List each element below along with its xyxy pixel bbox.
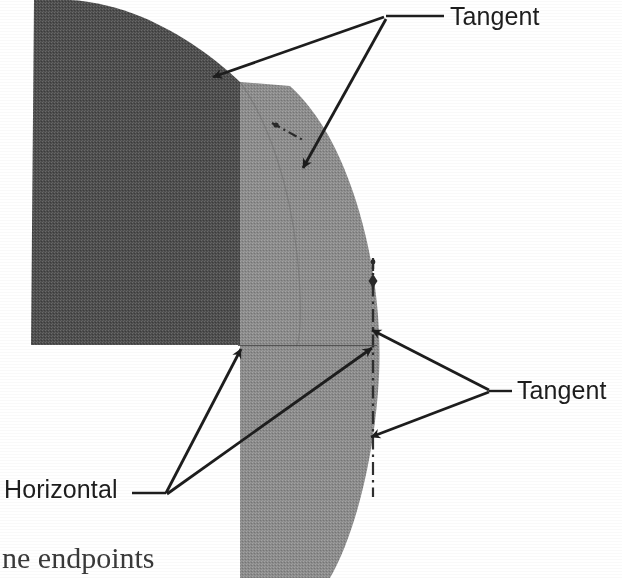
callout-arrow	[166, 349, 241, 493]
figure-root: Tangent Tangent Horizontal ne endpoints	[0, 0, 622, 578]
label-tangent-bottom: Tangent	[517, 378, 607, 403]
callout-arrow	[372, 330, 489, 390]
label-horizontal: Horizontal	[4, 477, 118, 502]
page-body-text-fragment: ne endpoints	[2, 543, 154, 573]
callout-tangent-bottom	[371, 330, 512, 437]
callout-arrow	[371, 392, 489, 437]
dark-shaded-region	[31, 0, 240, 345]
label-tangent-top: Tangent	[450, 4, 540, 29]
